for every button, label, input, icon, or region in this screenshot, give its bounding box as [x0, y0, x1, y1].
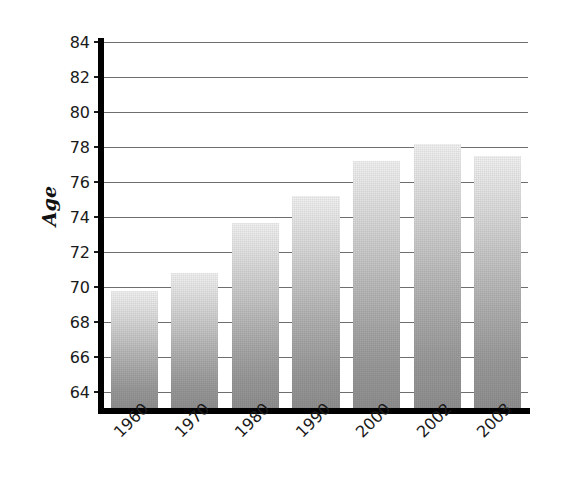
bar — [111, 291, 158, 410]
y-axis-tick-labels: 6466687072747678808284 — [54, 42, 98, 393]
y-axis-tick-label: 76 — [70, 173, 90, 192]
y-axis-tick-label: 66 — [70, 348, 90, 367]
y-axis-line — [98, 38, 104, 414]
y-axis-tick-label: 68 — [70, 313, 90, 332]
bar — [414, 144, 461, 410]
y-axis-tick-label: 80 — [70, 103, 90, 122]
bar-chart: Age 6466687072747678808284 1960197019801… — [0, 0, 562, 483]
bar — [292, 196, 339, 410]
bar — [171, 273, 218, 410]
bar — [353, 161, 400, 410]
y-axis-tick-label: 78 — [70, 138, 90, 157]
y-axis-tick-label: 82 — [70, 68, 90, 87]
bar — [474, 156, 521, 410]
y-axis-tick-label: 64 — [70, 383, 90, 402]
y-axis-tick-label: 72 — [70, 243, 90, 262]
y-axis-tick-label: 74 — [70, 208, 90, 227]
x-axis-tick-labels: 1960197019801990200020022003 — [104, 414, 528, 483]
bars-layer — [104, 42, 528, 410]
bar — [232, 223, 279, 411]
y-axis-tick-label: 84 — [70, 33, 90, 52]
y-axis-tick-label: 70 — [70, 278, 90, 297]
